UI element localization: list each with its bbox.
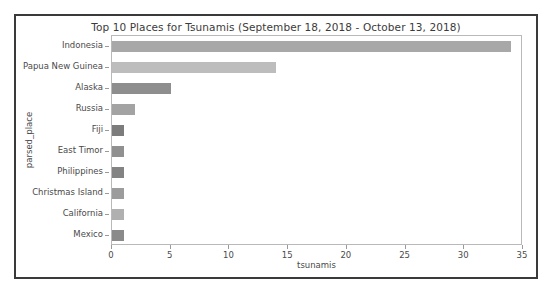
bar-row	[112, 78, 521, 99]
y-tick-label-mexico: Mexico	[73, 224, 103, 245]
y-axis-tick-labels: IndonesiaPapua New GuineaAlaskaRussiaFij…	[16, 35, 109, 245]
x-tick-label-25: 25	[399, 250, 410, 260]
y-tick-label-indonesia: Indonesia	[62, 35, 103, 56]
y-tick-label-papua-new-guinea: Papua New Guinea	[23, 56, 103, 77]
bar-row	[112, 183, 521, 204]
y-tick-label-alaska: Alaska	[75, 77, 103, 98]
x-tick-mark	[463, 245, 464, 249]
bar-row	[112, 225, 521, 246]
y-tick-mark	[105, 109, 109, 110]
bars-layer	[112, 36, 521, 244]
y-tick-mark	[105, 214, 109, 215]
x-tick-mark	[228, 245, 229, 249]
bar	[112, 125, 124, 136]
chart-title: Top 10 Places for Tsunamis (September 18…	[16, 21, 536, 33]
bar-row	[112, 141, 521, 162]
bar-row	[112, 120, 521, 141]
bar-row	[112, 99, 521, 120]
x-tick-mark	[287, 245, 288, 249]
x-tick-label-30: 30	[458, 250, 469, 260]
bar	[112, 188, 124, 199]
x-tick-mark	[170, 245, 171, 249]
y-tick-label-california: California	[63, 203, 103, 224]
bar-row	[112, 162, 521, 183]
x-tick-label-0: 0	[108, 250, 113, 260]
plot-area	[111, 35, 522, 245]
y-tick-mark	[105, 172, 109, 173]
bar	[112, 104, 135, 115]
y-tick-label-philippines: Philippines	[57, 161, 103, 182]
y-tick-mark	[105, 46, 109, 47]
x-tick-label-20: 20	[340, 250, 351, 260]
y-tick-mark	[105, 130, 109, 131]
bar	[112, 41, 511, 52]
y-tick-mark	[105, 88, 109, 89]
bar	[112, 62, 276, 73]
x-tick-label-35: 35	[517, 250, 528, 260]
y-tick-mark	[105, 151, 109, 152]
bar-row	[112, 204, 521, 225]
y-tick-label-christmas-island: Christmas Island	[32, 182, 103, 203]
x-axis-title: tsunamis	[111, 260, 522, 270]
y-tick-mark	[105, 235, 109, 236]
x-tick-mark	[111, 245, 112, 249]
bar-row	[112, 36, 521, 57]
x-tick-mark	[346, 245, 347, 249]
bar	[112, 146, 124, 157]
figure-frame: Top 10 Places for Tsunamis (September 18…	[14, 14, 538, 279]
bar	[112, 167, 124, 178]
y-tick-mark	[105, 67, 109, 68]
bar	[112, 209, 124, 220]
x-tick-label-10: 10	[223, 250, 234, 260]
x-tick-label-5: 5	[167, 250, 172, 260]
y-tick-label-east-timor: East Timor	[58, 140, 103, 161]
y-tick-label-russia: Russia	[76, 98, 103, 119]
x-tick-mark	[405, 245, 406, 249]
y-tick-label-fiji: Fiji	[92, 119, 103, 140]
y-tick-mark	[105, 193, 109, 194]
bar	[112, 83, 171, 94]
bar-row	[112, 57, 521, 78]
x-tick-label-15: 15	[282, 250, 293, 260]
x-tick-mark	[522, 245, 523, 249]
bar	[112, 230, 124, 241]
